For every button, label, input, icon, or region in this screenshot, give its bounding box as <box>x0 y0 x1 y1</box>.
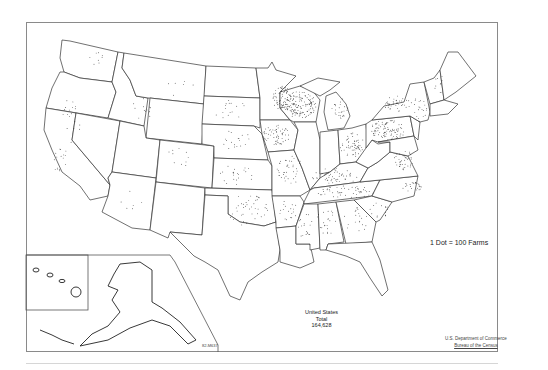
bottom-rule <box>26 363 498 364</box>
us-total-block: United States Total 164,628 <box>305 309 338 329</box>
alaska-shape <box>80 262 196 346</box>
hawaii-islands <box>33 268 81 297</box>
total-value: 164,628 <box>305 322 338 329</box>
state-outlines <box>44 40 476 300</box>
total-country: United States <box>305 309 338 316</box>
credit-department: U.S. Department of Commerce <box>445 335 507 342</box>
us-farms-dot-map <box>0 0 548 370</box>
legend-label: 1 Dot = 100 Farms <box>430 239 488 246</box>
credit-block: U.S. Department of Commerce Bureau of th… <box>445 335 507 349</box>
aleutian-islands <box>40 330 74 344</box>
hawaii-inset <box>26 255 88 310</box>
credit-bureau: Bureau of the Census <box>445 342 507 349</box>
map-id-label: 82-M637 <box>202 343 218 348</box>
